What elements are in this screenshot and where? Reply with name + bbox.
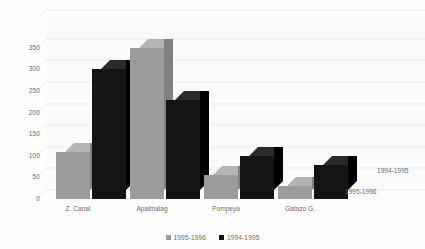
legend-label-1994-1995: 1994-1995 <box>227 234 259 241</box>
chart-legend: 1995-1996 1994-1995 <box>0 228 425 246</box>
x-tick-pompeya: Pompeya <box>212 205 240 212</box>
bar-z-canal-1994-1995[interactable] <box>92 69 126 199</box>
bar-side-face <box>348 156 357 190</box>
bar-gatazo-1994-1995[interactable] <box>314 165 348 199</box>
legend-label-1995-1996: 1995-1996 <box>174 234 206 241</box>
bar-pompeya-1994-1995[interactable] <box>240 156 274 199</box>
chart-container: 350 300 250 200 150 100 50 0 <box>0 0 425 249</box>
x-tick-apalmalag: Apalmalag <box>136 205 167 212</box>
legend-item-1994-1995[interactable]: 1994-1995 <box>219 234 259 241</box>
y-tick-0: 0 <box>6 195 40 203</box>
bar-pompeya-1995-1996[interactable] <box>204 175 238 199</box>
bar-z-canal-1995-1996[interactable] <box>56 152 90 199</box>
bar-side-face <box>274 147 283 190</box>
legend-swatch-icon <box>219 235 224 240</box>
y-tick-50: 50 <box>6 173 40 181</box>
bar-front-face <box>130 48 164 199</box>
bar-front-face <box>204 175 238 199</box>
y-tick-350: 350 <box>6 44 40 52</box>
bar-front-face <box>314 165 348 199</box>
legend-item-1995-1996[interactable]: 1995-1996 <box>166 234 206 241</box>
series-callout-1995-1996: 1995-1996 <box>345 188 377 195</box>
bar-apalmalag-1994-1995[interactable] <box>166 100 200 199</box>
bar-gatazo-1995-1996[interactable] <box>278 186 312 199</box>
bar-front-face <box>278 186 312 199</box>
bar-apalmalag-1995-1996[interactable] <box>130 48 164 199</box>
x-tick-gatazo-g: Gatazo G. <box>285 205 315 212</box>
legend-swatch-icon <box>166 235 171 240</box>
y-tick-100: 100 <box>6 152 40 160</box>
bar-front-face <box>92 69 126 199</box>
y-tick-250: 250 <box>6 87 40 95</box>
bar-front-face <box>240 156 274 199</box>
plot-area: 350 300 250 200 150 100 50 0 <box>0 0 425 225</box>
bar-front-face <box>56 152 90 199</box>
y-tick-300: 300 <box>6 65 40 73</box>
y-axis: 350 300 250 200 150 100 50 0 <box>0 0 40 225</box>
bar-front-face <box>166 100 200 199</box>
y-tick-150: 150 <box>6 130 40 138</box>
x-tick-z-canal: Z. Canal <box>66 205 91 212</box>
series-callout-1994-1995: 1994-1995 <box>377 167 409 174</box>
y-tick-200: 200 <box>6 109 40 117</box>
